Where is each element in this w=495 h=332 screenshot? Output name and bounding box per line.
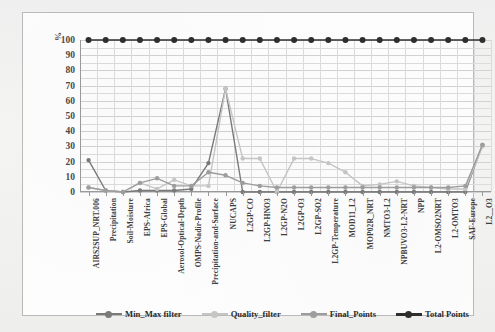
data-point	[275, 185, 279, 189]
x-axis-tick	[174, 192, 175, 196]
x-tick-label: L2GP-O3	[297, 198, 306, 230]
y-tick-label: 30	[45, 141, 80, 151]
data-point	[326, 185, 330, 189]
data-point	[343, 185, 347, 189]
x-axis-labels: AIRS2SUP_NRT.006PrecipitationSoil-Moistu…	[80, 192, 491, 290]
x-axis-tick	[380, 192, 381, 196]
x-tick-label: EPS-Global	[160, 198, 169, 237]
x-tick-label: NPP	[417, 198, 426, 213]
x-axis-tick	[431, 192, 432, 196]
x-axis-tick	[226, 192, 227, 196]
data-point	[446, 185, 450, 189]
data-point	[445, 37, 451, 43]
data-point	[377, 185, 381, 189]
x-axis-tick	[294, 192, 295, 196]
data-point	[155, 187, 159, 191]
data-point	[223, 173, 227, 177]
x-tick-label: NMTO3-L2	[383, 198, 392, 237]
x-tick-label: Precipitation	[109, 198, 118, 241]
x-tick-label: Soil-Moisture	[126, 198, 135, 243]
x-axis-tick	[191, 192, 192, 196]
data-point	[206, 161, 210, 165]
data-point	[309, 185, 313, 189]
data-point	[206, 184, 210, 188]
data-point	[292, 156, 296, 160]
y-tick-label: 60	[45, 96, 80, 106]
y-tick-label: 10	[45, 172, 80, 182]
plot-area: 1009080706050403020100	[80, 40, 491, 192]
x-tick-label: OMPS-Nadir-Profile	[194, 198, 203, 267]
data-point	[360, 185, 364, 189]
x-axis-tick	[363, 192, 364, 196]
x-axis-tick	[465, 192, 466, 196]
x-tick-label: L2-OMTO3	[451, 198, 460, 238]
x-axis-tick	[328, 192, 329, 196]
legend-swatch-icon	[96, 309, 122, 319]
data-point	[325, 37, 331, 43]
data-point	[172, 184, 176, 188]
x-tick-label: L2GP-N2O	[280, 198, 289, 236]
x-tick-label: NPBUVO3-L2-NRT	[400, 198, 409, 265]
data-point	[240, 156, 244, 160]
chart-frame: % 1009080706050403020100 AIRS2SUP_NRT.00…	[22, 12, 474, 316]
data-point	[291, 37, 297, 43]
y-tick-label: 20	[45, 157, 80, 167]
x-tick-label: L2GP-CO	[246, 198, 255, 232]
data-point	[429, 185, 433, 189]
series-line	[89, 89, 483, 192]
legend-item[interactable]: Quality_filter	[202, 309, 281, 319]
x-tick-label: NUCAPS	[229, 198, 238, 229]
data-point	[138, 181, 142, 185]
x-tick-label: L2GP-Temperature	[331, 198, 340, 264]
legend-swatch-icon	[396, 309, 422, 319]
data-point	[309, 156, 313, 160]
x-axis-tick	[106, 192, 107, 196]
legend-item[interactable]: Total Points	[396, 309, 469, 319]
x-tick-label: L2-OMSO2NRT	[434, 198, 443, 253]
series-total-points	[86, 37, 486, 43]
series-min-max-filter	[86, 86, 484, 194]
x-tick-label: Aerosol-Optical-Depth	[177, 198, 186, 274]
data-point	[412, 185, 416, 189]
data-point	[86, 37, 92, 43]
legend-item[interactable]: Final_Points	[301, 309, 376, 319]
y-tick-label: 100	[45, 35, 80, 45]
data-point	[479, 37, 485, 43]
data-point	[154, 37, 160, 43]
x-axis-tick	[89, 192, 90, 196]
data-point	[343, 170, 347, 174]
y-tick-label: 40	[45, 126, 80, 136]
legend-label: Quality_filter	[231, 309, 281, 319]
y-tick-label: 50	[45, 111, 80, 121]
x-axis-tick	[277, 192, 278, 196]
x-tick-label: AIRS2SUP_NRT.006	[92, 198, 101, 268]
data-point	[86, 158, 90, 162]
data-point	[205, 37, 211, 43]
x-axis-tick	[345, 192, 346, 196]
data-point	[394, 37, 400, 43]
legend-swatch-icon	[301, 309, 327, 319]
x-axis-tick	[414, 192, 415, 196]
data-point	[189, 184, 193, 188]
x-tick-label: EPS-Africa	[143, 198, 152, 236]
x-axis-tick	[140, 192, 141, 196]
x-tick-label: L2GP-HNO3	[263, 198, 272, 242]
series-lines	[80, 40, 491, 192]
x-axis-tick	[260, 192, 261, 196]
legend-item[interactable]: Min_Max filter	[96, 309, 182, 319]
x-axis-tick	[311, 192, 312, 196]
y-tick-label: 90	[45, 50, 80, 60]
data-point	[223, 37, 229, 43]
data-point	[103, 37, 109, 43]
x-tick-label: L2__O3	[485, 198, 494, 225]
data-point	[462, 37, 468, 43]
y-tick-label: 80	[45, 65, 80, 75]
data-point	[326, 161, 330, 165]
chart-legend: Min_Max filterQuality_filterFinal_Points…	[80, 305, 485, 323]
data-point	[292, 185, 296, 189]
legend-label: Total Points	[425, 309, 469, 319]
data-point	[155, 176, 159, 180]
data-point	[377, 37, 383, 43]
data-point	[223, 86, 227, 90]
x-axis-tick	[123, 192, 124, 196]
